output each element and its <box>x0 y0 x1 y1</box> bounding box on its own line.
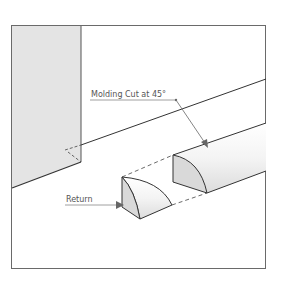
molding-return-diagram: Molding Cut at 45° Return <box>0 0 285 284</box>
molding-cut-label: Molding Cut at 45° <box>91 90 166 99</box>
wall-panel <box>12 26 81 188</box>
return-label: Return <box>66 195 93 204</box>
